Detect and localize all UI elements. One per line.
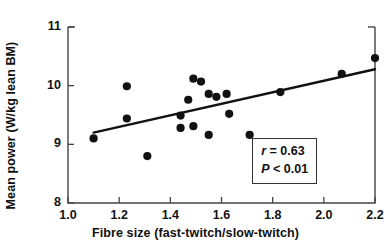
x-axis-tick-label: 1.2 <box>99 208 139 222</box>
tick-marks <box>68 27 375 203</box>
data-point <box>205 90 213 98</box>
regression-trend-line <box>94 69 375 132</box>
x-axis-tick-label: 1.8 <box>253 208 293 222</box>
data-point <box>143 152 151 160</box>
x-axis-tick-label: 1.4 <box>150 208 190 222</box>
r-relation: = <box>266 144 280 158</box>
data-point <box>189 122 197 130</box>
data-point <box>276 88 284 96</box>
data-point <box>225 110 233 118</box>
p-relation: < <box>270 162 284 176</box>
x-axis-tick-label: 2.0 <box>304 208 344 222</box>
x-axis-tick-label: 2.2 <box>355 208 391 222</box>
data-point <box>89 134 97 142</box>
y-axis-title: Mean power (W/kg lean BM) <box>0 0 22 251</box>
y-axis-tick-label: 8 <box>35 195 61 209</box>
data-point <box>123 114 131 122</box>
data-point-markers <box>89 54 379 160</box>
data-point <box>176 111 184 119</box>
p-symbol: P <box>261 162 269 176</box>
figure-scatter-plot: 891011 1.01.21.41.61.82.02.2 Mean power … <box>0 0 391 251</box>
data-point <box>371 54 379 62</box>
y-axis-tick-label: 10 <box>35 78 61 92</box>
x-axis-title: Fibre size (fast-twitch/slow-twitch) <box>0 226 391 240</box>
data-point <box>184 96 192 104</box>
x-axis-tick-label: 1.0 <box>48 208 88 222</box>
data-point <box>338 70 346 78</box>
data-point <box>197 77 205 85</box>
r-value: 0.63 <box>280 144 304 158</box>
correlation-coefficient-text: r = 0.63 <box>261 143 308 160</box>
y-axis-tick-label: 9 <box>35 136 61 150</box>
p-value: 0.01 <box>284 162 308 176</box>
data-point <box>223 90 231 98</box>
y-axis-tick-label: 11 <box>35 19 61 33</box>
x-axis-tick-label: 1.6 <box>202 208 242 222</box>
data-point <box>176 124 184 132</box>
data-point <box>212 93 220 101</box>
p-value-text: P < 0.01 <box>261 161 308 178</box>
statistics-annotation-box: r = 0.63 P < 0.01 <box>252 138 317 184</box>
data-point <box>189 75 197 83</box>
data-point <box>205 131 213 139</box>
data-point <box>123 82 131 90</box>
axes-frame <box>68 27 375 203</box>
